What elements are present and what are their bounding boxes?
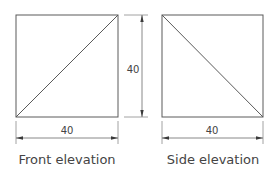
arrow-up-icon: [140, 15, 143, 22]
front-elevation-caption: Front elevation: [18, 152, 115, 167]
arrow-right-icon: [256, 136, 263, 139]
side-diagonal: [162, 15, 263, 117]
arrow-left-icon: [162, 136, 169, 139]
front-height-label: 40: [127, 64, 140, 75]
side-width-label: 40: [206, 125, 219, 136]
front-elevation: 40 40: [16, 15, 148, 144]
front-diagonal: [16, 15, 118, 117]
elevation-drawing: 40 40 40: [0, 0, 276, 171]
front-width-label: 40: [61, 125, 74, 136]
side-elevation-caption: Side elevation: [167, 152, 259, 167]
arrow-right-icon: [111, 136, 118, 139]
side-elevation: 40: [162, 15, 263, 144]
arrow-left-icon: [16, 136, 23, 139]
arrow-down-icon: [140, 110, 143, 117]
